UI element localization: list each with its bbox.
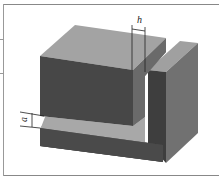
upper-block	[40, 25, 166, 126]
block-diagram	[0, 0, 219, 181]
dimension-h-label: h	[137, 14, 142, 25]
dimension-a-label: a	[18, 117, 29, 122]
